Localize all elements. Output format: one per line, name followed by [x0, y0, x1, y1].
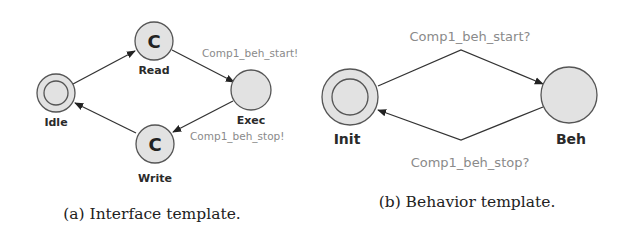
sync-label-stop-send: Comp1_beh_stop!: [190, 130, 285, 143]
caption-behavior-template: (b) Behavior template.: [379, 193, 556, 211]
state-write: C Write: [136, 125, 174, 185]
state-label-read: Read: [138, 64, 169, 77]
sync-label-stop-receive: Comp1_beh_stop?: [411, 155, 530, 170]
state-label-init: Init: [334, 131, 361, 147]
state-read: C Read: [135, 22, 173, 77]
state-label-exec: Exec: [237, 114, 266, 127]
edge-idle-to-read: [73, 51, 135, 84]
state-label-beh: Beh: [556, 131, 586, 147]
edge-write-to-idle: [75, 103, 136, 133]
sync-label-start-receive: Comp1_beh_start?: [410, 29, 531, 44]
behavior-template-diagram: Init Beh Comp1_beh_start? Comp1_beh_stop…: [322, 29, 597, 211]
committed-mark-read: C: [147, 31, 160, 52]
caption-interface-template: (a) Interface template.: [63, 205, 241, 223]
state-idle: Idle: [37, 74, 75, 129]
state-label-write: Write: [138, 172, 172, 185]
state-init: Init: [322, 69, 378, 147]
state-exec: Exec: [231, 70, 271, 127]
edge-beh-to-init: [378, 107, 543, 140]
edge-init-to-beh: [378, 50, 543, 86]
initial-state-outer-circle: [322, 69, 378, 125]
state-label-idle: Idle: [44, 116, 67, 129]
committed-mark-write: C: [148, 134, 161, 155]
sync-label-start-send: Comp1_beh_start!: [202, 47, 298, 60]
state-beh: Beh: [541, 67, 597, 147]
initial-state-outer-circle: [37, 74, 75, 112]
edge-exec-to-write: [173, 101, 233, 132]
interface-template-diagram: Idle C Read Exec C Write Comp1_beh_start…: [37, 22, 298, 223]
